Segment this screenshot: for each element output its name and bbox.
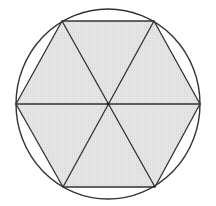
- hexagon-in-circle-diagram: [0, 0, 216, 206]
- diagram-canvas: [0, 0, 216, 206]
- center-point: [107, 103, 110, 106]
